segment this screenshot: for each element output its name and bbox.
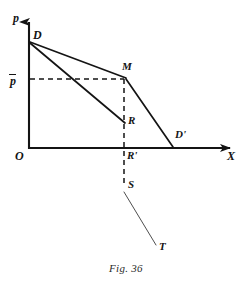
segment-d-to-m [30,42,126,78]
p-axis-label: p [13,12,19,24]
point-label-r: R [128,115,135,126]
segment-d-to-r [30,43,125,123]
figure-container: p D p M R R' D' O X S T Fig. 36 [0,0,252,286]
origin-label-o: O [15,150,24,162]
point-label-p-bar: p [10,74,16,87]
point-label-t: T [159,241,166,252]
point-label-s: S [128,179,134,190]
point-label-m: M [122,61,132,72]
point-label-d: D [33,29,42,41]
point-label-d-prime: D' [175,129,186,140]
segment-m-to-dprime [126,79,173,147]
figure-caption: Fig. 36 [0,262,252,274]
figure-drawing [0,0,252,286]
x-axis-label: X [227,150,235,162]
leader-s-to-t [124,192,156,245]
point-label-r-prime: R' [127,150,137,161]
